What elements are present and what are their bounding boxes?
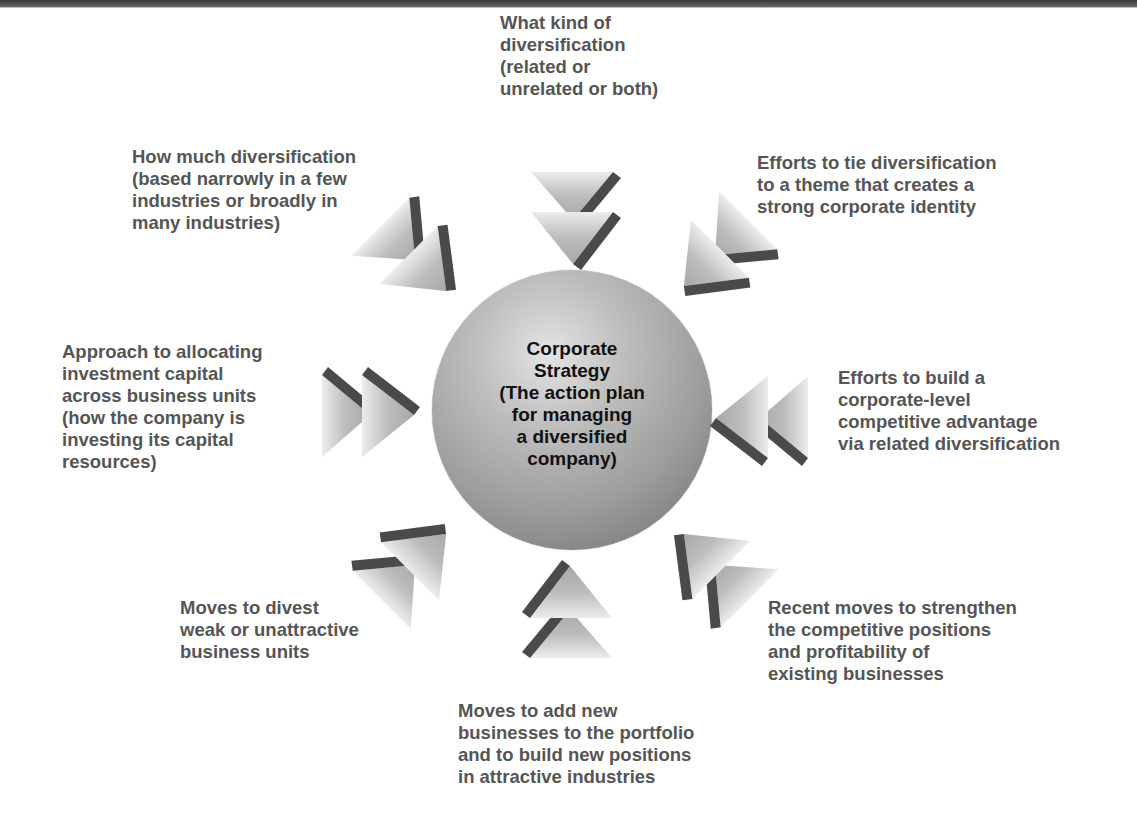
label-strengthen-existing-businesses: Recent moves to strengthen the competiti… — [768, 597, 1017, 685]
label-what-kind-of-diversification: What kind of diversification (related or… — [500, 12, 658, 100]
corporate-strategy-sphere: Corporate Strategy (The action plan for … — [432, 270, 712, 550]
label-corporate-identity-theme: Efforts to tie diversification to a them… — [757, 152, 997, 218]
label-add-new-businesses: Moves to add new businesses to the portf… — [458, 700, 694, 788]
double-chevron-arrow-icon-left — [310, 355, 430, 475]
label-how-much-diversification: How much diversification (based narrowly… — [132, 146, 356, 234]
top-border-bar — [0, 0, 1137, 7]
double-chevron-arrow-icon-top — [513, 160, 633, 280]
label-divest-weak-units: Moves to divest weak or unattractive bus… — [180, 597, 359, 663]
center-title: Corporate Strategy (The action plan for … — [432, 338, 712, 470]
label-corporate-level-advantage: Efforts to build a corporate-level compe… — [838, 367, 1060, 455]
double-chevron-arrow-icon-bottom — [510, 550, 630, 670]
label-allocating-capital: Approach to allocating investment capita… — [62, 341, 262, 473]
double-chevron-arrow-icon-right — [700, 358, 820, 478]
